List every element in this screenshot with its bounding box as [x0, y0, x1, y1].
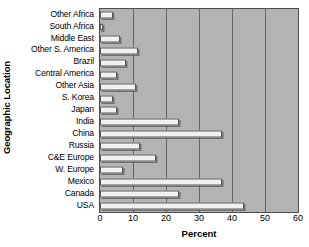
x-axis-tick-label: 50 [260, 213, 270, 223]
bar[interactable] [100, 191, 179, 198]
bar-row [100, 33, 298, 45]
bar[interactable] [100, 131, 222, 138]
bar[interactable] [100, 59, 126, 66]
y-axis-tick-label: W. Europe [14, 163, 97, 175]
y-axis-tick-label: Other Asia [14, 80, 97, 92]
bar-row [100, 128, 298, 140]
y-axis-tick-label: Japan [14, 104, 97, 116]
bar-row [100, 9, 298, 21]
y-axis-tick-label: Mexico [14, 175, 97, 187]
y-axis-tick-label: Brazil [14, 56, 97, 68]
bar-row [100, 176, 298, 188]
bar[interactable] [100, 35, 120, 42]
y-axis-tick-label: Other Africa [14, 8, 97, 20]
y-axis-tick-label: C&E Europe [14, 151, 97, 163]
bar[interactable] [100, 167, 123, 174]
bar[interactable] [100, 47, 138, 54]
bar-row [100, 188, 298, 200]
y-axis-tick-label: Central America [14, 68, 97, 80]
y-axis-tick-label: USA [14, 199, 97, 211]
x-axis-tick-labels: 0102030405060 [99, 213, 299, 226]
y-axis-tick-label: China [14, 127, 97, 139]
bar-row [100, 45, 298, 57]
bar[interactable] [100, 107, 117, 114]
bar[interactable] [100, 11, 113, 18]
bar[interactable] [100, 179, 222, 186]
plot-area [99, 8, 299, 213]
x-axis-tick-label: 0 [97, 213, 102, 223]
y-axis-tick-labels: Other AfricaSouth AfricaMiddle EastOther… [14, 8, 97, 211]
y-axis-title: Geographic Location [0, 0, 14, 214]
x-axis-tick-label: 60 [293, 213, 303, 223]
bar-chart-figure: Geographic Location Other AfricaSouth Af… [0, 0, 309, 247]
y-axis-tick-label: Middle East [14, 32, 97, 44]
bar-row [100, 200, 298, 212]
bar-row [100, 116, 298, 128]
y-axis-tick-label: Russia [14, 139, 97, 151]
bar[interactable] [100, 119, 179, 126]
y-axis-title-text: Geographic Location [2, 60, 13, 153]
bar-row [100, 105, 298, 117]
bar[interactable] [100, 143, 140, 150]
bar-row [100, 152, 298, 164]
y-axis-tick-label: India [14, 115, 97, 127]
x-axis-tick-label: 40 [227, 213, 237, 223]
bar-row [100, 69, 298, 81]
bar[interactable] [100, 83, 136, 90]
y-axis-tick-label: S. Korea [14, 92, 97, 104]
y-axis-tick-label: Other S. America [14, 44, 97, 56]
y-axis-tick-label: Canada [14, 187, 97, 199]
bar[interactable] [100, 202, 244, 209]
bar[interactable] [100, 71, 117, 78]
x-axis-tick-label: 30 [194, 213, 204, 223]
bar-row [100, 21, 298, 33]
bar[interactable] [100, 95, 113, 102]
y-axis-tick-label: South Africa [14, 20, 97, 32]
bar-row [100, 140, 298, 152]
bar-row [100, 57, 298, 69]
x-axis-tick-label: 10 [128, 213, 138, 223]
bar-row [100, 81, 298, 93]
x-axis-tick-label: 20 [161, 213, 171, 223]
bar[interactable] [100, 155, 156, 162]
bar-row [100, 93, 298, 105]
bar[interactable] [100, 23, 103, 30]
bar-row [100, 164, 298, 176]
x-axis-title: Percent [99, 228, 299, 239]
bars-container [100, 9, 298, 212]
